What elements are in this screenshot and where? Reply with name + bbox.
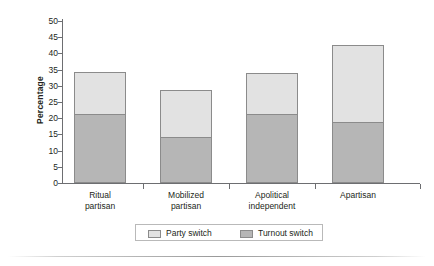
y-tick-label: 30 — [32, 82, 58, 91]
legend-label-turnout-switch: Turnout switch — [258, 229, 313, 238]
legend-label-party-switch: Party switch — [166, 229, 212, 238]
bar-segment-party-switch — [332, 45, 384, 123]
y-tick-label: 40 — [32, 49, 58, 58]
x-tick-mark — [229, 184, 230, 189]
legend-swatch-light-icon — [148, 230, 161, 238]
bar-segment-party-switch — [246, 73, 298, 114]
legend-swatch-dark-icon — [240, 230, 253, 238]
y-tick-label: 10 — [32, 147, 58, 156]
y-tick-label: 5 — [32, 163, 58, 172]
y-tick-label: 15 — [32, 130, 58, 139]
bar-segment-turnout-switch — [332, 123, 384, 183]
bar-segment-turnout-switch — [74, 115, 126, 183]
bar-segment-party-switch — [160, 90, 212, 138]
y-axis-line — [62, 19, 63, 184]
legend-item-turnout-switch: Turnout switch — [240, 228, 313, 239]
y-tick-label: 50 — [32, 17, 58, 26]
bar-segment-party-switch — [74, 72, 126, 115]
y-tick-label: 0 — [32, 179, 58, 188]
y-tick-label: 45 — [32, 33, 58, 42]
y-tick-label: 25 — [32, 98, 58, 107]
bar-segment-turnout-switch — [246, 115, 298, 183]
plot-area: Percentage 05101520253035404550 Ritualpa… — [0, 0, 434, 266]
legend-item-party-switch: Party switch — [148, 228, 212, 239]
page-divider-rule — [8, 256, 426, 257]
x-tick-mark — [143, 184, 144, 189]
x-tick-label-line: independent — [217, 201, 327, 212]
x-tick-label-line: Apartisan — [303, 190, 413, 201]
bar-segment-turnout-switch — [160, 138, 212, 183]
y-axis-ticks: 05101520253035404550 — [30, 0, 58, 266]
y-tick-label: 20 — [32, 114, 58, 123]
y-tick-label: 35 — [32, 66, 58, 75]
stacked-bar-chart-figure: Percentage 05101520253035404550 Ritualpa… — [0, 0, 434, 266]
chart-legend: Party switch Turnout switch — [135, 224, 323, 241]
x-tick-label: Apartisan — [303, 190, 413, 201]
x-axis-line — [62, 183, 420, 184]
x-tick-mark — [420, 184, 421, 189]
x-tick-mark — [315, 184, 316, 189]
